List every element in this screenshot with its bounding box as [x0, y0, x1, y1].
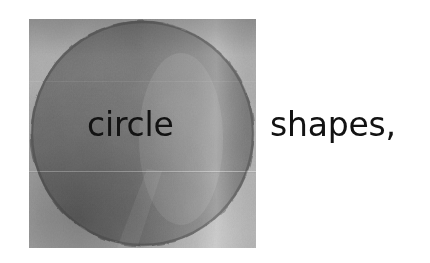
page-canvas: circle shapes, — [0, 0, 430, 263]
label-circle: circle — [87, 108, 174, 141]
label-shapes: shapes, — [270, 108, 396, 141]
